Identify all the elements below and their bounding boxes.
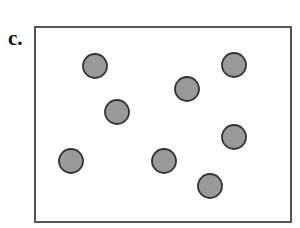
dot	[222, 53, 246, 77]
dot	[222, 125, 246, 149]
dot	[105, 100, 129, 124]
dot	[152, 149, 176, 173]
dot	[198, 174, 222, 198]
dot-diagram	[0, 0, 300, 228]
dot	[175, 77, 199, 101]
dot	[83, 54, 107, 78]
panel-frame	[35, 27, 291, 222]
dot	[59, 149, 83, 173]
dots-group	[59, 53, 246, 198]
